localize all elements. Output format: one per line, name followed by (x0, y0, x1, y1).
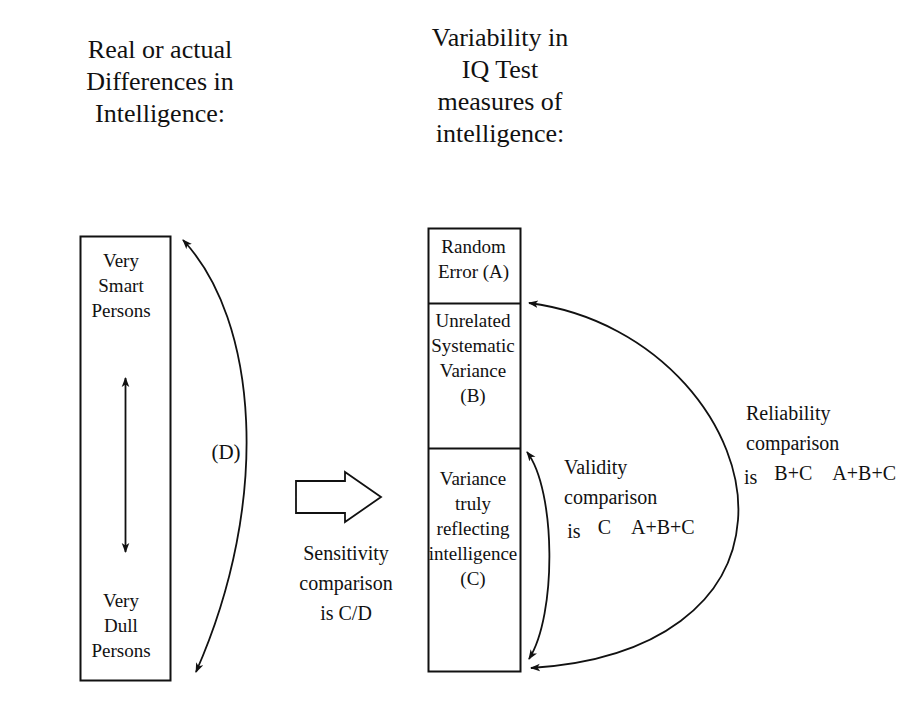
center-box (429, 229, 521, 672)
sensitivity-comparison-label: Sensitivity comparison is C/D (266, 538, 426, 628)
validity-numerator: C (590, 516, 619, 539)
validity-comparison: Validity comparison is C A+B+C (560, 452, 710, 545)
left-box-top-label: Very Smart Persons (72, 248, 170, 323)
reliability-denominator: A+B+C (824, 462, 904, 484)
reliability-is-label: is (744, 459, 757, 491)
transfer-block-arrow (296, 472, 381, 522)
center-box-segment-a-label: Random Error (A) (426, 234, 521, 284)
d-range-label: (D) (196, 437, 256, 467)
reliability-fraction: B+C A+B+C (766, 459, 904, 487)
reliability-comparison-title: Reliability comparison (744, 398, 904, 458)
validity-is-label: is (567, 513, 580, 545)
center-box-segment-c-label: Variance truly reflecting intelligence (… (423, 466, 523, 591)
left-box-bottom-label: Very Dull Persons (72, 588, 170, 663)
validity-fraction: C A+B+C (590, 513, 703, 541)
center-box-segment-b-label: Unrelated Systematic Variance (B) (423, 308, 523, 408)
heading-real-differences: Real or actual Differences in Intelligen… (10, 34, 310, 130)
validity-arrow (527, 452, 549, 659)
diagram-canvas: Real or actual Differences in Intelligen… (0, 0, 906, 720)
reliability-comparison: Reliability comparison is B+C A+B+C (744, 398, 904, 491)
heading-iq-variability: Variability in IQ Test measures of intel… (350, 22, 650, 150)
validity-denominator: A+B+C (623, 516, 703, 538)
validity-comparison-title: Validity comparison (560, 452, 710, 512)
reliability-numerator: B+C (766, 462, 820, 485)
